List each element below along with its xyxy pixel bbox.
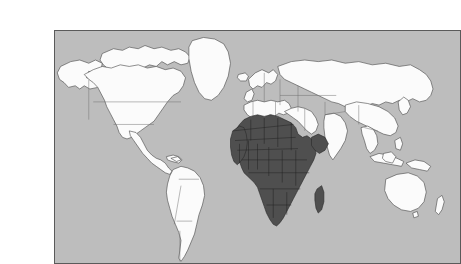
iceland-landmass: [237, 73, 248, 81]
world-map-svg[interactable]: [55, 31, 460, 263]
world-map-figure: [54, 30, 461, 264]
tasmania-island: [413, 211, 419, 217]
